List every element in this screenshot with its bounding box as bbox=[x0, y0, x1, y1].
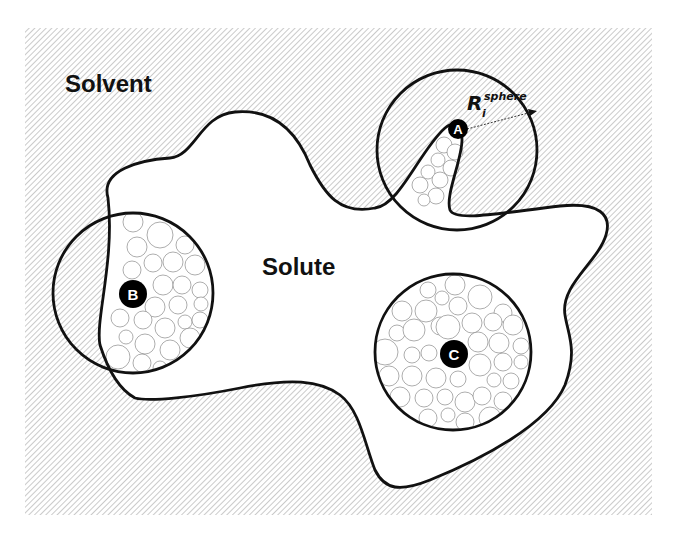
marker-b: B bbox=[119, 280, 147, 308]
marker-b-label: B bbox=[128, 286, 139, 303]
radius-superscript: sphere bbox=[484, 90, 527, 103]
marker-a-label: A bbox=[453, 122, 463, 137]
marker-c: C bbox=[440, 340, 468, 368]
marker-a: A bbox=[448, 119, 468, 139]
solvation-diagram: R i sphere A B C Solvent Solute bbox=[0, 0, 678, 533]
solute-label: Solute bbox=[262, 253, 335, 280]
radius-subscript: i bbox=[482, 107, 486, 120]
radius-symbol: R bbox=[467, 91, 482, 115]
solvent-label: Solvent bbox=[65, 70, 152, 97]
marker-c-label: C bbox=[449, 346, 460, 363]
